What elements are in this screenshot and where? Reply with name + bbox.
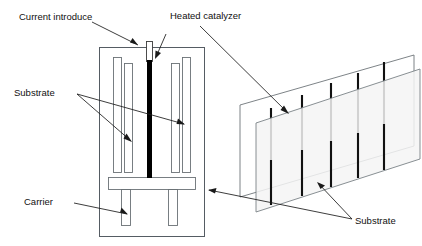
- carrier-bar: [109, 178, 196, 190]
- substrate-plate-4: [183, 58, 191, 173]
- carrier-leg-right: [169, 190, 178, 226]
- label-heated-catalyzer: Heated catalyzer: [170, 10, 241, 21]
- substrate-plate-1: [114, 58, 122, 173]
- arrowhead-substrate-left-b: [177, 119, 186, 125]
- leader-substrate-left-b: [77, 94, 184, 124]
- substrate-perspective-view: [240, 55, 420, 212]
- figure-canvas: Current introduce Heated catalyzer Subst…: [0, 0, 422, 246]
- leader-heated-catalyzer-3d: [200, 26, 288, 113]
- substrate-plate-front-3d: [256, 69, 420, 212]
- filament-electrode-icon: [147, 42, 153, 62]
- reactor-cross-section: [100, 42, 205, 237]
- leader-substrate-left-a: [77, 94, 131, 141]
- arrowhead-substrate-right-a: [208, 188, 217, 194]
- label-substrate-left: Substrate: [14, 87, 55, 98]
- heated-filament: [147, 60, 152, 178]
- label-substrate-right: Substrate: [355, 215, 396, 226]
- label-current-introduce: Current introduce: [19, 11, 92, 22]
- label-carrier: Carrier: [24, 196, 53, 207]
- leader-substrate-right-b: [318, 183, 352, 219]
- leader-carrier: [74, 203, 127, 214]
- carrier-leg-left: [122, 190, 131, 226]
- arrowhead-current-introduce: [130, 38, 138, 45]
- arrowhead-heated-catalyzer-filament: [155, 51, 161, 60]
- substrate-plate-2: [125, 64, 133, 173]
- substrate-plate-3: [172, 64, 180, 173]
